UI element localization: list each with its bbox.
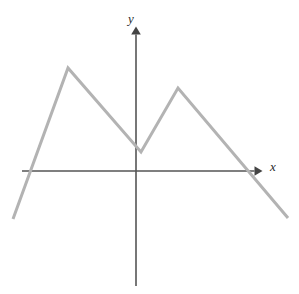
- y-axis-label: y: [128, 12, 134, 25]
- x-axis-arrow-icon: [255, 166, 263, 176]
- x-axis-label: x: [270, 160, 276, 173]
- piecewise-linear-curve: [13, 68, 288, 219]
- y-axis-arrow-icon: [131, 27, 141, 35]
- graph-figure: y x: [0, 0, 299, 294]
- graph-canvas: [0, 0, 299, 294]
